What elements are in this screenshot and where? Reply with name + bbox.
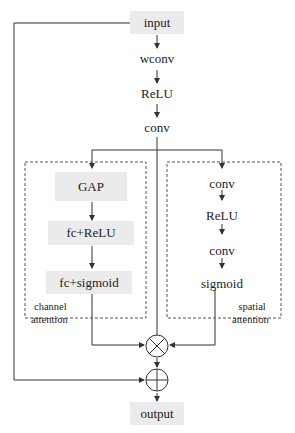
- spatial-conv2-node: conv: [192, 244, 252, 257]
- channel-attention-label: channel attention: [31, 300, 68, 326]
- multiply-operator-icon: [146, 335, 168, 357]
- add-operator-icon: [146, 369, 168, 391]
- input-label: input: [144, 15, 171, 31]
- output-label: output: [140, 406, 173, 422]
- fc-relu-node: fc+ReLU: [48, 221, 134, 245]
- fc-sigmoid-node: fc+sigmoid: [46, 271, 132, 294]
- wconv-node: wconv: [127, 52, 187, 65]
- spatial-attention-label: spatial attention: [232, 300, 269, 326]
- gap-node: GAP: [55, 172, 127, 201]
- input-node: input: [130, 11, 184, 34]
- output-node: output: [130, 402, 184, 425]
- spatial-relu-node: ReLU: [192, 209, 252, 222]
- spatial-sigmoid-node: sigmoid: [187, 277, 257, 290]
- conv-node: conv: [127, 121, 187, 134]
- skip-connection-line: [14, 23, 144, 380]
- relu-node: ReLU: [127, 87, 187, 100]
- spatial-conv1-node: conv: [192, 177, 252, 190]
